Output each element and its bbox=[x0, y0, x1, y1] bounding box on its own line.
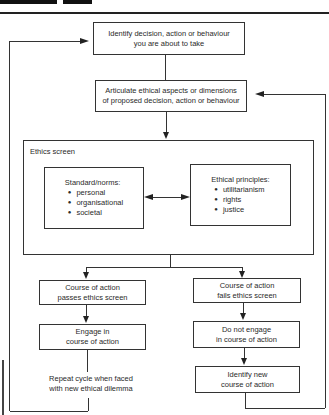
loop-right-top bbox=[262, 94, 325, 95]
engage-line1: Engage in bbox=[76, 327, 110, 337]
arrow-right-icon bbox=[80, 38, 89, 44]
engage-line2: course of action bbox=[66, 337, 119, 347]
repeat-cycle-note: Repeat cycle when faced with new ethical… bbox=[36, 374, 146, 394]
connector-identify-loop bbox=[245, 393, 246, 408]
loop-left-top bbox=[9, 41, 84, 42]
identify-new-line1: Identify new bbox=[227, 370, 267, 380]
figure-number-tab bbox=[63, 0, 92, 4]
arrow-down-icon bbox=[240, 313, 246, 320]
arrow-down-icon bbox=[241, 358, 247, 365]
connector-step2-screen bbox=[166, 112, 167, 132]
page-border-left bbox=[2, 360, 4, 415]
ethical-principles-box: Ethical principles: utilitarianism right… bbox=[190, 164, 291, 226]
ethics-screen-label: Ethics screen bbox=[30, 147, 75, 157]
standard-item: personal bbox=[68, 188, 123, 198]
loop-right-bottom bbox=[245, 408, 325, 409]
loop-left-vertical bbox=[9, 41, 10, 411]
identify-new-box: Identify new course of action bbox=[195, 366, 300, 393]
connector-screen-split bbox=[170, 255, 171, 267]
standards-norms-box: Standard/norms: personal organisational … bbox=[44, 167, 144, 229]
identify-new-line2: course of action bbox=[221, 380, 274, 390]
arrow-right-icon bbox=[181, 194, 190, 200]
principles-title: Ethical principles: bbox=[211, 175, 269, 184]
loop-right-vertical bbox=[325, 94, 326, 408]
principle-item: utilitarianism bbox=[214, 185, 269, 195]
arrow-down-icon bbox=[83, 316, 89, 323]
donot-line1: Do not engage bbox=[222, 325, 271, 335]
principle-item: justice bbox=[214, 205, 269, 215]
do-not-engage-box: Do not engage in course of action bbox=[193, 321, 300, 348]
step-articulate-line2: of proposed decision, action or behaviou… bbox=[102, 96, 239, 106]
repeat-line2: with new ethical dilemma bbox=[36, 384, 146, 394]
bidirectional-connector bbox=[152, 197, 182, 198]
standard-item: organisational bbox=[68, 198, 123, 208]
step-identify-decision: Identify decision, action or behaviour y… bbox=[93, 22, 245, 55]
fails-screen-box: Course of action fails ethics screen bbox=[193, 278, 301, 303]
standards-title: Standard/norms: bbox=[65, 178, 123, 187]
repeat-line1: Repeat cycle when faced bbox=[36, 374, 146, 384]
standard-item: societal bbox=[68, 208, 123, 218]
connector-step1-step2 bbox=[165, 55, 166, 80]
arrow-down-icon bbox=[239, 271, 245, 278]
step-articulate-ethics: Articulate ethical aspects or dimensions… bbox=[95, 80, 247, 112]
fails-line1: Course of action bbox=[220, 281, 275, 291]
passes-line1: Course of action bbox=[65, 283, 120, 293]
principle-item: rights bbox=[214, 195, 269, 205]
arrow-left-icon bbox=[144, 194, 153, 200]
principles-list: Ethical principles: utilitarianism right… bbox=[211, 175, 269, 215]
fails-line2: fails ethics screen bbox=[217, 291, 277, 301]
split-horizontal bbox=[86, 267, 242, 268]
step-identify-line2: you are about to take bbox=[134, 39, 204, 49]
passes-screen-box: Course of action passes ethics screen bbox=[39, 280, 146, 305]
donot-line2: in course of action bbox=[216, 335, 277, 345]
header-rule bbox=[0, 12, 329, 14]
arrow-left-icon bbox=[255, 91, 264, 97]
passes-line2: passes ethics screen bbox=[57, 293, 127, 303]
step-articulate-line1: Articulate ethical aspects or dimensions bbox=[105, 86, 237, 96]
connector-engage-repeat bbox=[87, 350, 88, 372]
arrow-down-icon bbox=[83, 272, 89, 279]
step-identify-line1: Identify decision, action or behaviour bbox=[108, 29, 230, 39]
arrow-down-icon bbox=[163, 132, 169, 139]
loop-left-bottom bbox=[10, 411, 88, 412]
engage-box: Engage in course of action bbox=[39, 324, 146, 350]
connector-repeat-loop bbox=[88, 398, 89, 411]
standards-list: Standard/norms: personal organisational … bbox=[65, 178, 123, 218]
figure-label-tab bbox=[0, 0, 57, 4]
